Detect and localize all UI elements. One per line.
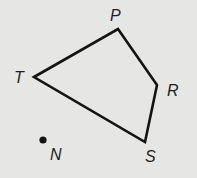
point-label-n: N — [50, 146, 62, 163]
diagram-canvas: T P R S N — [0, 0, 197, 178]
vertex-label-s: S — [145, 148, 156, 165]
geometry-figure: T P R S N — [0, 0, 197, 178]
vertex-label-p: P — [110, 7, 121, 24]
point-n-dot — [39, 136, 46, 143]
quadrilateral-tprs — [34, 29, 157, 142]
vertex-label-r: R — [167, 82, 179, 99]
vertex-label-t: T — [14, 69, 25, 86]
